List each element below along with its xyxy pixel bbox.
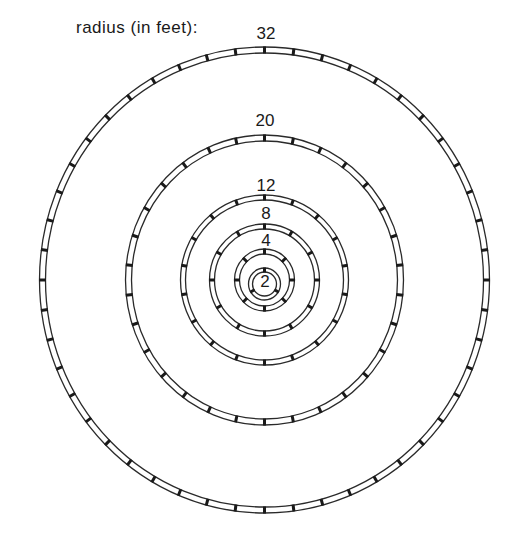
ring-label-12: 12	[257, 176, 276, 195]
segment-tick	[292, 138, 293, 145]
segment-tick	[374, 476, 378, 482]
segment-tick	[307, 252, 312, 255]
segment-tick	[379, 349, 385, 353]
ring-label-32: 32	[257, 24, 276, 43]
segment-tick	[332, 237, 337, 240]
segment-tick	[144, 207, 150, 211]
segment-tick	[289, 231, 292, 236]
segment-tick	[183, 162, 187, 168]
segment-tick	[56, 191, 62, 194]
segment-tick	[396, 265, 403, 266]
ring-label-8: 8	[261, 204, 270, 223]
ring-label-20: 20	[256, 111, 275, 130]
segment-tick	[419, 115, 424, 120]
segment-tick	[237, 231, 240, 236]
segment-tick	[191, 320, 196, 323]
segment-tick	[481, 250, 488, 251]
segment-tick	[161, 373, 166, 378]
segment-tick	[293, 505, 294, 512]
segment-tick	[391, 235, 398, 237]
segment-tick	[318, 407, 321, 413]
segment-tick	[47, 220, 54, 222]
segment-tick	[178, 489, 181, 495]
segment-tick	[126, 294, 133, 295]
segment-tick	[454, 163, 460, 167]
segment-tick	[41, 310, 48, 311]
concentric-rings-diagram: 322012842	[0, 0, 517, 542]
segment-tick	[419, 440, 424, 445]
segment-tick	[183, 392, 187, 398]
segment-tick	[126, 265, 133, 266]
segment-tick	[127, 95, 131, 101]
segment-tick	[243, 258, 247, 262]
segment-tick	[291, 355, 293, 361]
segment-tick	[208, 407, 211, 413]
segment-tick	[181, 265, 187, 266]
segment-tick	[481, 310, 488, 311]
segment-tick	[86, 138, 92, 142]
segment-tick	[41, 250, 48, 251]
segment-tick	[237, 324, 240, 329]
ring-label-2: 2	[260, 272, 269, 291]
segment-tick	[291, 200, 293, 206]
segment-tick	[250, 290, 254, 293]
segment-tick	[47, 339, 54, 341]
segment-tick	[69, 163, 75, 167]
segment-tick	[398, 95, 402, 101]
segment-tick	[391, 323, 398, 325]
segment-tick	[466, 367, 472, 370]
segment-tick	[105, 115, 110, 120]
segment-tick	[216, 305, 221, 308]
segment-tick	[342, 162, 346, 168]
segment-tick	[342, 294, 348, 295]
segment-tick	[454, 393, 460, 397]
segment-tick	[86, 418, 92, 422]
segment-tick	[236, 415, 237, 422]
segment-tick	[315, 215, 319, 220]
segment-tick	[438, 418, 444, 422]
segment-tick	[342, 265, 348, 266]
segment-tick	[476, 339, 483, 341]
segment-tick	[318, 147, 321, 153]
segment-tick	[342, 392, 346, 398]
segment-tick	[56, 367, 62, 370]
segment-tick	[206, 54, 208, 61]
segment-tick	[374, 78, 378, 84]
segment-tick	[236, 138, 237, 145]
segment-tick	[321, 499, 323, 506]
segment-tick	[274, 290, 278, 293]
segment-tick	[293, 49, 294, 56]
segment-tick	[132, 323, 139, 325]
segment-tick	[236, 200, 238, 206]
segment-tick	[476, 220, 483, 222]
segment-tick	[438, 138, 444, 142]
segment-tick	[127, 460, 131, 466]
segment-tick	[379, 207, 385, 211]
segment-tick	[307, 305, 312, 308]
segment-tick	[206, 499, 208, 506]
segment-tick	[348, 64, 351, 70]
segment-tick	[363, 373, 368, 378]
segment-tick	[321, 54, 323, 61]
segment-tick	[216, 252, 221, 255]
segment-tick	[282, 258, 286, 262]
segment-tick	[363, 183, 368, 188]
segment-tick	[69, 393, 75, 397]
segment-tick	[243, 298, 247, 302]
segment-tick	[235, 49, 236, 56]
segment-tick	[398, 460, 402, 466]
segment-tick	[315, 341, 319, 346]
segment-tick	[466, 191, 472, 194]
segment-tick	[235, 505, 236, 512]
segment-tick	[210, 215, 214, 220]
segment-tick	[332, 320, 337, 323]
segment-tick	[236, 355, 238, 361]
segment-tick	[210, 341, 214, 346]
segment-tick	[289, 324, 292, 329]
segment-tick	[152, 78, 156, 84]
segment-tick	[181, 294, 187, 295]
segment-tick	[208, 147, 211, 153]
segment-tick	[191, 237, 196, 240]
segment-tick	[282, 298, 286, 302]
segment-tick	[396, 294, 403, 295]
